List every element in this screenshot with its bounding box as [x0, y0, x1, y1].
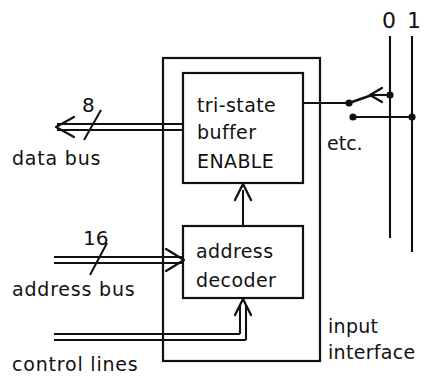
rail-1-label: 1 — [407, 8, 421, 33]
switch-blade[interactable] — [349, 95, 372, 103]
rail-0-label: 0 — [382, 8, 396, 33]
rail-0-wire — [386, 36, 393, 238]
tri-state-buffer-line3: ENABLE — [197, 150, 274, 172]
rail-1-wire — [408, 36, 415, 252]
rail-0-junction-node — [386, 91, 393, 98]
input-interface-label-line2: interface — [328, 341, 415, 363]
address-decoder-line2: decoder — [196, 269, 276, 291]
etc-label: etc. — [327, 132, 363, 154]
data-bus-label: data bus — [12, 147, 101, 169]
control-lines-label: control lines — [12, 353, 139, 375]
tri-state-buffer-line2: buffer — [197, 121, 256, 143]
selector-switch[interactable] — [345, 88, 412, 121]
diagram-canvas: tri-state buffer ENABLE address decoder … — [0, 0, 432, 380]
input-interface-label-line1: input — [328, 315, 378, 337]
rail-1-junction-node — [408, 113, 415, 120]
address-decoder-line1: address — [196, 240, 273, 262]
input-interface-diagram: tri-state buffer ENABLE address decoder … — [0, 0, 432, 380]
address-bus-label: address bus — [12, 278, 136, 300]
address-bus-width-label: 16 — [83, 226, 108, 250]
tri-state-buffer-line1: tri-state — [197, 94, 276, 116]
data-bus-width-label: 8 — [82, 93, 95, 117]
